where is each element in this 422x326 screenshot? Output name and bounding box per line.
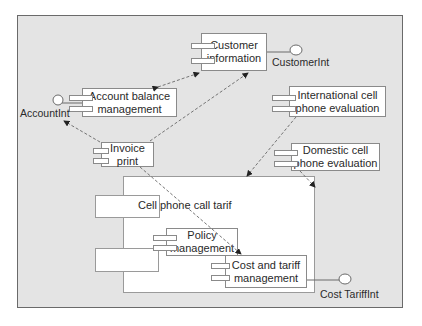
international-evaluation-component: International cell phone evaluation xyxy=(289,86,386,117)
customer-information-component: Customer information xyxy=(201,33,267,71)
component-tab-icon xyxy=(211,275,230,281)
component-tab-icon xyxy=(272,95,296,101)
invoice-print-label: Invoice print xyxy=(110,142,145,168)
policy-management-label: Policy management xyxy=(170,229,234,255)
cell-phone-call-tarif-label: Cell phone call tarif xyxy=(138,199,232,211)
component-tab-icon xyxy=(191,43,215,49)
component-tab-icon xyxy=(191,58,215,64)
component-tab-icon xyxy=(274,161,298,167)
component-tab-icon xyxy=(93,158,109,164)
cost-tariff-interface-label: Cost TariffInt xyxy=(320,288,379,300)
component-tab-icon xyxy=(211,263,230,269)
component-tab-icon xyxy=(274,150,298,156)
component-tab-icon xyxy=(93,148,109,154)
component-tab-icon xyxy=(153,245,177,251)
domestic-evaluation-component: Domestic cell phone evaluation xyxy=(291,143,380,171)
international-evaluation-label: International cell phone evaluation xyxy=(296,89,380,115)
cost-tariff-management-component: Cost and tariff management xyxy=(225,255,307,288)
component-tab-icon xyxy=(272,106,296,112)
account-balance-component: Account balance management xyxy=(82,88,177,117)
policy-management-component: Policy management xyxy=(166,228,238,256)
cost-tariff-management-label: Cost and tariff management xyxy=(232,259,300,285)
domestic-evaluation-label: Domestic cell phone evaluation xyxy=(294,144,378,170)
component-tab-icon xyxy=(69,106,93,112)
component-tab-icon xyxy=(69,95,93,101)
account-interface-label: AccountInt xyxy=(20,107,70,119)
container-tab-lower xyxy=(95,248,159,272)
component-tab-icon xyxy=(153,235,177,241)
account-balance-label: Account balance management xyxy=(89,90,170,116)
customer-interface-label: CustomerInt xyxy=(272,56,329,68)
